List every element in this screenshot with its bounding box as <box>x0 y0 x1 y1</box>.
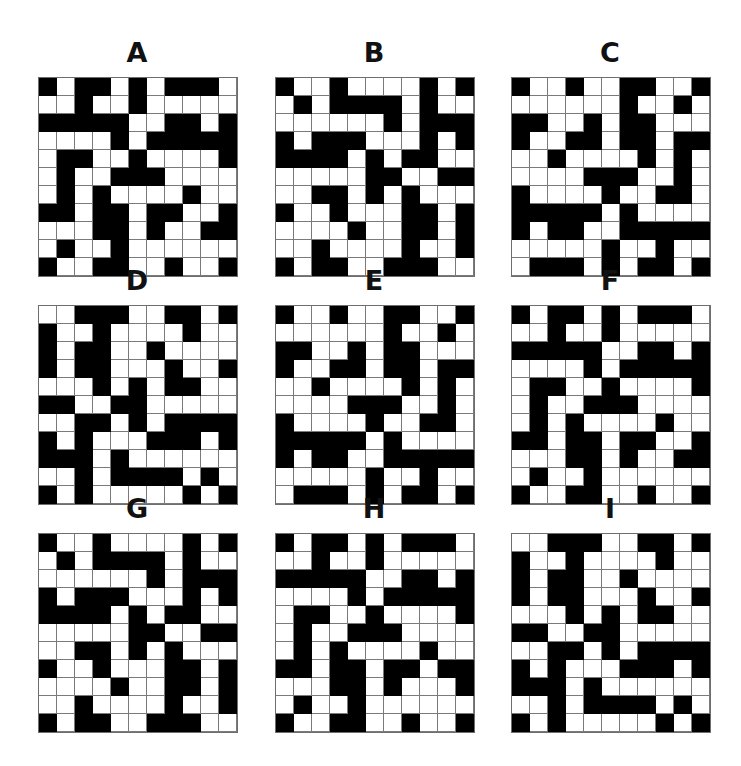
filled-cell <box>384 588 402 606</box>
filled-cell <box>147 222 165 240</box>
filled-cell <box>219 534 237 552</box>
empty-cell <box>584 306 602 324</box>
filled-cell <box>620 432 638 450</box>
empty-cell <box>548 78 566 96</box>
empty-cell <box>165 96 183 114</box>
empty-cell <box>183 168 201 186</box>
filled-cell <box>183 306 201 324</box>
filled-cell <box>456 606 474 624</box>
empty-cell <box>330 114 348 132</box>
empty-cell <box>312 342 330 360</box>
empty-cell <box>656 450 674 468</box>
empty-cell <box>57 468 75 486</box>
empty-cell <box>656 570 674 588</box>
filled-cell <box>330 678 348 696</box>
empty-cell <box>129 204 147 222</box>
filled-cell <box>57 204 75 222</box>
empty-cell <box>384 186 402 204</box>
filled-cell <box>530 378 548 396</box>
filled-cell <box>276 78 294 96</box>
filled-cell <box>584 204 602 222</box>
empty-cell <box>57 96 75 114</box>
empty-cell <box>183 696 201 714</box>
empty-cell <box>39 240 57 258</box>
empty-cell <box>111 642 129 660</box>
filled-cell <box>219 306 237 324</box>
filled-cell <box>348 696 366 714</box>
filled-cell <box>456 360 474 378</box>
filled-cell <box>384 324 402 342</box>
empty-cell <box>402 168 420 186</box>
empty-cell <box>201 240 219 258</box>
empty-cell <box>674 414 692 432</box>
filled-cell <box>638 132 656 150</box>
filled-cell <box>330 642 348 660</box>
filled-cell <box>147 168 165 186</box>
empty-cell <box>584 222 602 240</box>
empty-cell <box>294 306 312 324</box>
filled-cell <box>147 132 165 150</box>
empty-cell <box>111 624 129 642</box>
filled-cell <box>75 342 93 360</box>
empty-cell <box>75 204 93 222</box>
empty-cell <box>147 678 165 696</box>
filled-cell <box>656 342 674 360</box>
filled-cell <box>638 150 656 168</box>
empty-cell <box>129 678 147 696</box>
empty-cell <box>147 642 165 660</box>
filled-cell <box>129 414 147 432</box>
filled-cell <box>438 324 456 342</box>
empty-cell <box>584 606 602 624</box>
empty-cell <box>312 114 330 132</box>
empty-cell <box>602 342 620 360</box>
filled-cell <box>348 342 366 360</box>
empty-cell <box>584 324 602 342</box>
filled-cell <box>93 342 111 360</box>
filled-cell <box>348 678 366 696</box>
empty-cell <box>201 204 219 222</box>
empty-cell <box>57 534 75 552</box>
filled-cell <box>566 606 584 624</box>
empty-cell <box>420 168 438 186</box>
empty-cell <box>111 186 129 204</box>
empty-cell <box>512 534 530 552</box>
empty-cell <box>219 96 237 114</box>
empty-cell <box>456 534 474 552</box>
filled-cell <box>566 570 584 588</box>
empty-cell <box>656 96 674 114</box>
empty-cell <box>638 678 656 696</box>
filled-cell <box>276 570 294 588</box>
empty-cell <box>366 324 384 342</box>
filled-cell <box>530 468 548 486</box>
empty-cell <box>384 714 402 732</box>
empty-cell <box>584 96 602 114</box>
empty-cell <box>674 678 692 696</box>
filled-cell <box>384 660 402 678</box>
empty-cell <box>111 342 129 360</box>
filled-cell <box>129 468 147 486</box>
filled-cell <box>348 570 366 588</box>
empty-cell <box>183 396 201 414</box>
filled-cell <box>384 168 402 186</box>
empty-cell <box>165 624 183 642</box>
filled-cell <box>438 360 456 378</box>
filled-cell <box>438 660 456 678</box>
empty-cell <box>330 552 348 570</box>
filled-cell <box>420 96 438 114</box>
filled-cell <box>294 432 312 450</box>
empty-cell <box>57 414 75 432</box>
empty-cell <box>602 468 620 486</box>
empty-cell <box>548 186 566 204</box>
filled-cell <box>111 222 129 240</box>
empty-cell <box>111 534 129 552</box>
empty-cell <box>620 306 638 324</box>
empty-cell <box>93 168 111 186</box>
filled-cell <box>420 132 438 150</box>
filled-cell <box>294 150 312 168</box>
empty-cell <box>366 378 384 396</box>
filled-cell <box>57 186 75 204</box>
empty-cell <box>692 414 710 432</box>
empty-cell <box>348 78 366 96</box>
empty-cell <box>183 204 201 222</box>
empty-cell <box>674 342 692 360</box>
